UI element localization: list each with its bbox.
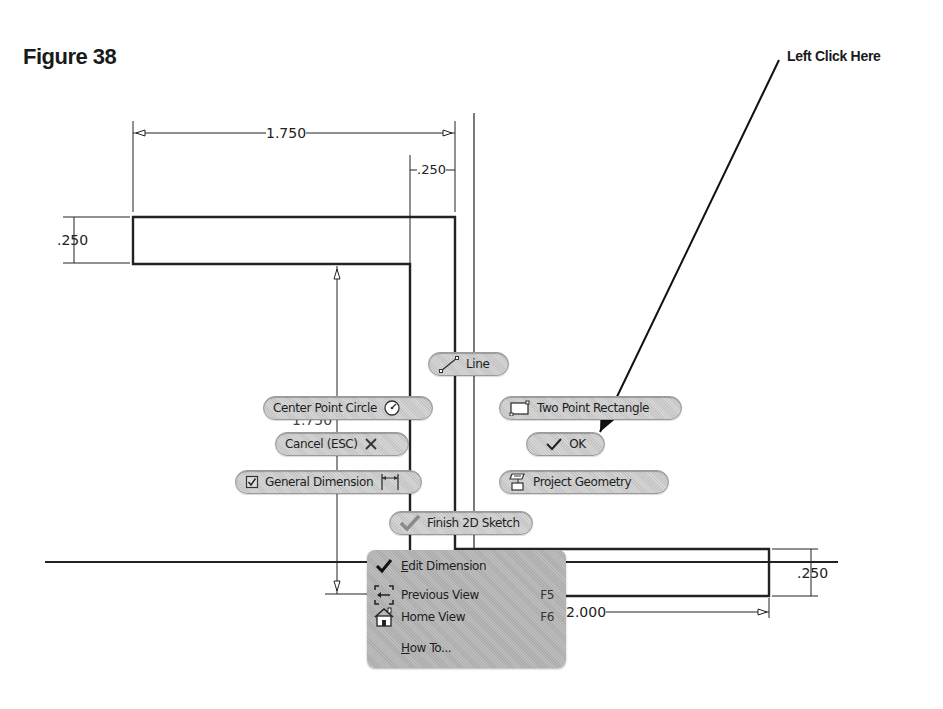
callout-arrow (600, 60, 779, 432)
menu-item-edit-dimension[interactable]: Edit Dimension (367, 555, 566, 577)
menu-item-home-view[interactable]: Home View F6 (367, 606, 566, 628)
line-button[interactable]: Line (428, 352, 509, 376)
check-icon (373, 555, 395, 577)
dimension-icon (379, 473, 401, 491)
center-point-circle-label: Center Point Circle (273, 401, 377, 415)
x-icon (364, 437, 378, 451)
cancel-label: Cancel (ESC) (285, 437, 358, 451)
finish-2d-sketch-button[interactable]: Finish 2D Sketch (389, 511, 533, 535)
menu-item-label: Edit Dimension (401, 559, 486, 573)
circle-icon (383, 399, 401, 417)
dim-bottom-width[interactable]: 2.000 (566, 605, 606, 619)
dim-right-height[interactable]: .250 (797, 566, 828, 580)
two-point-rectangle-label: Two Point Rectangle (537, 401, 649, 415)
project-geometry-button[interactable]: Project Geometry (499, 470, 669, 494)
general-dimension-label: General Dimension (265, 475, 373, 489)
context-menu: Edit Dimension Previous View F5 Home Vie… (367, 550, 566, 668)
two-point-rectangle-button[interactable]: Two Point Rectangle (499, 396, 682, 420)
check-icon (545, 437, 563, 451)
cancel-button[interactable]: Cancel (ESC) (275, 432, 409, 456)
menu-item-label: Home View (401, 610, 465, 624)
ok-button[interactable]: OK (526, 432, 605, 456)
dimension-checkbox-icon (245, 475, 259, 489)
dim-top-thickness[interactable]: .250 (417, 163, 446, 177)
menu-item-how-to[interactable]: How To... (367, 637, 566, 659)
menu-item-label: Previous View (401, 588, 479, 602)
ok-label: OK (569, 437, 586, 451)
previous-view-icon (373, 584, 395, 606)
menu-item-shortcut: F6 (540, 610, 554, 624)
center-point-circle-button[interactable]: Center Point Circle (263, 396, 433, 420)
general-dimension-button[interactable]: General Dimension (235, 470, 422, 494)
menu-item-label: How To... (401, 641, 451, 655)
home-icon (373, 606, 395, 628)
project-geometry-icon (509, 472, 527, 492)
finish-check-icon (399, 514, 421, 532)
line-icon (438, 355, 460, 373)
finish-2d-sketch-label: Finish 2D Sketch (427, 516, 520, 530)
rectangle-icon (509, 400, 531, 416)
dim-top-width[interactable]: 1.750 (266, 126, 306, 140)
line-label: Line (466, 357, 489, 371)
dim-left-height[interactable]: .250 (57, 233, 88, 247)
menu-item-previous-view[interactable]: Previous View F5 (367, 584, 566, 606)
menu-item-shortcut: F5 (540, 588, 554, 602)
project-geometry-label: Project Geometry (533, 475, 631, 489)
